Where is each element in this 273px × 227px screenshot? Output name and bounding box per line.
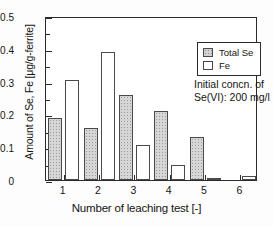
bar-total-se-3 xyxy=(119,95,133,180)
annotation-line-1: Initial concn. of xyxy=(194,78,270,91)
x-axis-tick xyxy=(205,175,206,180)
y-axis-tick-label: 0.1 xyxy=(0,143,14,154)
x-axis-tick-label: 1 xyxy=(53,184,73,196)
bar-fe-6 xyxy=(242,176,256,180)
x-axis-tick xyxy=(99,175,100,180)
y-axis-tick-label: 0.4 xyxy=(0,44,14,55)
y-axis-minor-tick xyxy=(46,100,50,101)
legend-swatch-fe-icon xyxy=(203,61,213,70)
y-axis-title: Amount of Se, Fe [μg/g-ferrite] xyxy=(23,7,35,177)
bar-total-se-5 xyxy=(190,137,204,180)
bar-fe-2 xyxy=(101,52,115,180)
x-axis-tick-label: 2 xyxy=(88,184,108,196)
x-axis-tick xyxy=(134,175,135,180)
y-axis-minor-tick xyxy=(46,34,50,35)
x-axis-tick xyxy=(170,175,171,180)
y-axis-tick xyxy=(46,18,52,19)
bar-total-se-4 xyxy=(154,111,168,180)
legend-label-fe: Fe xyxy=(219,60,230,71)
x-axis-tick xyxy=(64,175,65,180)
x-axis-tick xyxy=(240,175,241,180)
bar-total-se-2 xyxy=(84,128,98,180)
bar-fe-3 xyxy=(136,145,150,180)
legend-label-total-se: Total Se xyxy=(219,47,253,58)
x-axis-tick-label: 4 xyxy=(159,184,179,196)
y-axis-minor-tick xyxy=(46,67,50,68)
y-axis-tick xyxy=(46,84,52,85)
x-axis-title: Number of leaching test [-] xyxy=(0,202,273,214)
chart-annotation: Initial concn. of Se(VI): 200 mg/l xyxy=(194,78,270,103)
bar-fe-1 xyxy=(65,80,79,180)
y-axis-tick-label: 0.3 xyxy=(0,77,14,88)
y-axis-tick xyxy=(46,182,52,183)
y-axis-tick xyxy=(46,51,52,52)
x-axis-tick-label: 6 xyxy=(229,184,249,196)
legend-item-fe: Fe xyxy=(203,59,253,72)
chart-legend: Total Se Fe xyxy=(197,42,261,76)
bar-fe-4 xyxy=(171,165,185,180)
x-axis-tick-label: 5 xyxy=(194,184,214,196)
x-axis-tick-label: 3 xyxy=(123,184,143,196)
bar-chart-figure: Amount of Se, Fe [μg/g-ferrite] Total Se… xyxy=(0,0,273,227)
y-axis-tick-label: 0.5 xyxy=(0,12,14,23)
legend-item-total-se: Total Se xyxy=(203,46,253,59)
legend-swatch-total-se-icon xyxy=(203,48,213,57)
bar-fe-5 xyxy=(207,178,221,180)
y-axis-tick-label: 0.2 xyxy=(0,110,14,121)
plot-frame: Total Se Fe Initial concn. of Se(VI): 20… xyxy=(45,17,257,181)
annotation-line-2: Se(VI): 200 mg/l xyxy=(194,91,270,104)
bar-total-se-1 xyxy=(48,118,62,180)
y-axis-tick-label: 0 xyxy=(0,176,14,187)
